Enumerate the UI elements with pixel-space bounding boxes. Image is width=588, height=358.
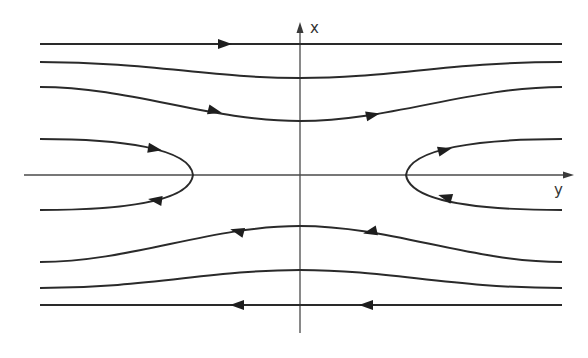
y-axis-label: y — [554, 181, 563, 199]
direction-arrow-icon — [437, 190, 453, 203]
trajectory-curve — [40, 87, 562, 121]
direction-arrow-icon — [365, 109, 381, 122]
direction-arrow-icon — [359, 300, 373, 310]
x-axis-arrowhead-icon — [297, 22, 304, 33]
trajectory-curve — [40, 226, 562, 262]
trajectory-upper-curve-2 — [40, 87, 562, 121]
y-axis-arrowhead-icon — [563, 172, 574, 179]
trajectory-lower-curve-2 — [40, 270, 562, 288]
direction-arrow-icon — [229, 224, 245, 237]
trajectory-lower-curve-1 — [40, 224, 562, 262]
phase-portrait-diagram: x y — [0, 0, 588, 358]
direction-arrow-icon — [147, 143, 163, 155]
trajectory-curve — [40, 62, 562, 78]
direction-arrow-icon — [207, 104, 223, 117]
direction-arrow-icon — [437, 143, 453, 156]
direction-arrow-icon — [230, 300, 244, 310]
trajectory-upper-curve-1 — [40, 62, 562, 78]
x-axis-label: x — [310, 19, 319, 37]
direction-arrow-icon — [147, 194, 162, 206]
trajectory-curve — [40, 270, 562, 288]
trajectory-top-line — [40, 39, 562, 49]
trajectory-bottom-line — [40, 300, 562, 310]
direction-arrow-icon — [218, 39, 232, 49]
